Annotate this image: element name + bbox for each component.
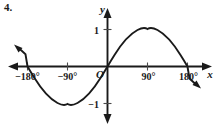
sine-graph-figure: 4. −180° −90° 90° 180° 1 xyxy=(0,0,221,128)
x-axis-tick-label-180: 180° xyxy=(179,71,198,82)
y-axis-tick-label-positive-1: 1 xyxy=(94,25,99,36)
x-axis-tick-label-90: 90° xyxy=(142,71,156,82)
x-axis-tick-label-minus-90: −90° xyxy=(58,71,78,82)
origin-label: O xyxy=(96,68,104,80)
y-axis-bottom-arrowhead xyxy=(104,114,112,124)
x-axis-name-label: x xyxy=(206,68,213,80)
x-axis-tick-label-minus-180: −180° xyxy=(15,71,40,82)
coordinate-plane: −180° −90° 90° 180° 1 −1 O y x xyxy=(0,0,221,128)
y-axis-tick-label-negative-1: −1 xyxy=(88,99,99,110)
x-axis-left-arrowhead xyxy=(8,63,18,71)
y-axis-name-label: y xyxy=(98,3,105,15)
